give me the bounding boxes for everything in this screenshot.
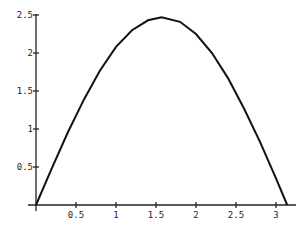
x-tick-label: 1.5 <box>148 210 164 220</box>
y-tick-label: 2 <box>28 48 33 58</box>
x-tick-label: 3 <box>273 210 278 220</box>
chart: 0.511.522.530.511.522.5 <box>0 0 308 226</box>
y-tick-label: 1.5 <box>17 86 33 96</box>
y-tick-label: 0.5 <box>17 162 33 172</box>
x-tick-label: 2 <box>193 210 198 220</box>
x-tick-label: 0.5 <box>68 210 84 220</box>
ticks: 0.511.522.530.511.522.5 <box>17 10 279 220</box>
data-line <box>36 17 287 205</box>
y-tick-label: 2.5 <box>17 10 33 20</box>
axes <box>28 14 296 211</box>
x-tick-label: 2.5 <box>228 210 244 220</box>
y-tick-label: 1 <box>28 124 33 134</box>
x-tick-label: 1 <box>113 210 118 220</box>
